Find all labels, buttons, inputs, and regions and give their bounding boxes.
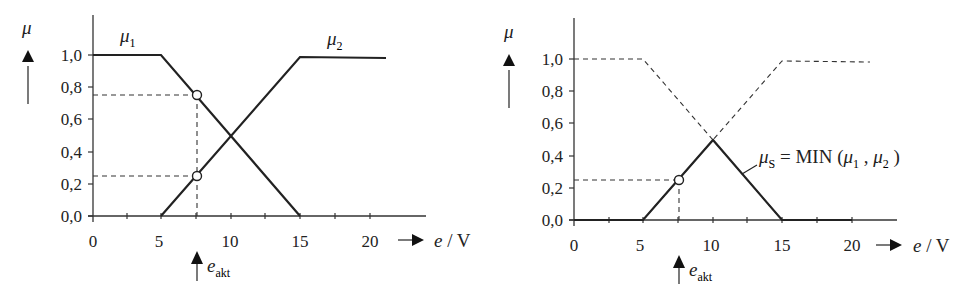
svg-text:20: 20 — [362, 232, 379, 251]
svg-text:15: 15 — [292, 232, 309, 251]
mu1-label: μ1 — [119, 25, 136, 50]
svg-text:1,0: 1,0 — [542, 50, 563, 69]
mu1-curve-dashed — [574, 59, 782, 220]
x-axis-label: e / V — [913, 235, 950, 256]
svg-text:0,2: 0,2 — [61, 175, 82, 194]
guide-lines — [574, 180, 679, 220]
svg-text:0,8: 0,8 — [61, 78, 82, 97]
svg-text:1,0: 1,0 — [61, 46, 82, 65]
mu1-eakt-marker — [193, 91, 202, 100]
e-akt-label: eakt — [689, 259, 713, 284]
x-axis-arrow-icon — [876, 239, 902, 251]
right-chart: μ 1,0 0,8 0,6 0,4 0,2 0,0 — [503, 18, 950, 284]
e-akt-label: eakt — [207, 255, 231, 280]
svg-text:0,2: 0,2 — [542, 179, 563, 198]
mu2-curve-dashed — [643, 61, 870, 220]
x-tick-labels: 0 5 10 15 20 — [89, 232, 379, 251]
fuzzy-membership-figure: μ 1,0 0,8 0,6 0,4 0,2 0,0 — [0, 0, 968, 298]
mu2-curve — [161, 57, 386, 216]
x-tick-labels: 0 5 10 15 20 — [570, 236, 861, 255]
mu-s-label: μS = MIN (μ1 , μ2 ) — [758, 146, 900, 171]
mu2-label: μ2 — [326, 28, 343, 53]
y-ticks — [569, 59, 574, 220]
svg-text:0,6: 0,6 — [61, 110, 82, 129]
y-axis-arrow-icon — [503, 54, 515, 108]
y-axis-label: μ — [21, 17, 32, 38]
svg-text:10: 10 — [703, 236, 720, 255]
y-tick-labels: 1,0 0,8 0,6 0,4 0,2 0,0 — [61, 46, 83, 226]
svg-text:0,8: 0,8 — [542, 82, 563, 101]
svg-text:5: 5 — [155, 232, 164, 251]
svg-text:5: 5 — [636, 236, 645, 255]
guide-lines — [93, 95, 197, 216]
svg-text:0,4: 0,4 — [61, 143, 83, 162]
svg-text:0,6: 0,6 — [542, 114, 563, 133]
svg-text:0,4: 0,4 — [542, 147, 564, 166]
svg-text:0: 0 — [570, 236, 579, 255]
svg-text:0,0: 0,0 — [61, 207, 82, 226]
y-tick-labels: 1,0 0,8 0,6 0,4 0,2 0,0 — [542, 50, 564, 230]
svg-text:10: 10 — [222, 232, 239, 251]
e-akt-arrow-icon — [673, 255, 685, 284]
e-akt-arrow-icon — [191, 251, 203, 281]
x-axis-arrow-icon — [398, 234, 424, 246]
mu-s-eakt-marker — [675, 176, 684, 185]
svg-text:0: 0 — [89, 232, 98, 251]
y-ticks — [88, 55, 93, 216]
svg-text:0,0: 0,0 — [542, 211, 563, 230]
x-axis-label: e / V — [434, 230, 471, 251]
svg-text:20: 20 — [844, 236, 861, 255]
left-chart: μ 1,0 0,8 0,6 0,4 0,2 0,0 — [21, 15, 471, 281]
y-axis-arrow-icon — [22, 50, 34, 104]
mu2-eakt-marker — [193, 172, 202, 181]
y-axis-label: μ — [503, 21, 514, 42]
label-leader-line — [742, 165, 757, 174]
svg-text:15: 15 — [774, 236, 791, 255]
